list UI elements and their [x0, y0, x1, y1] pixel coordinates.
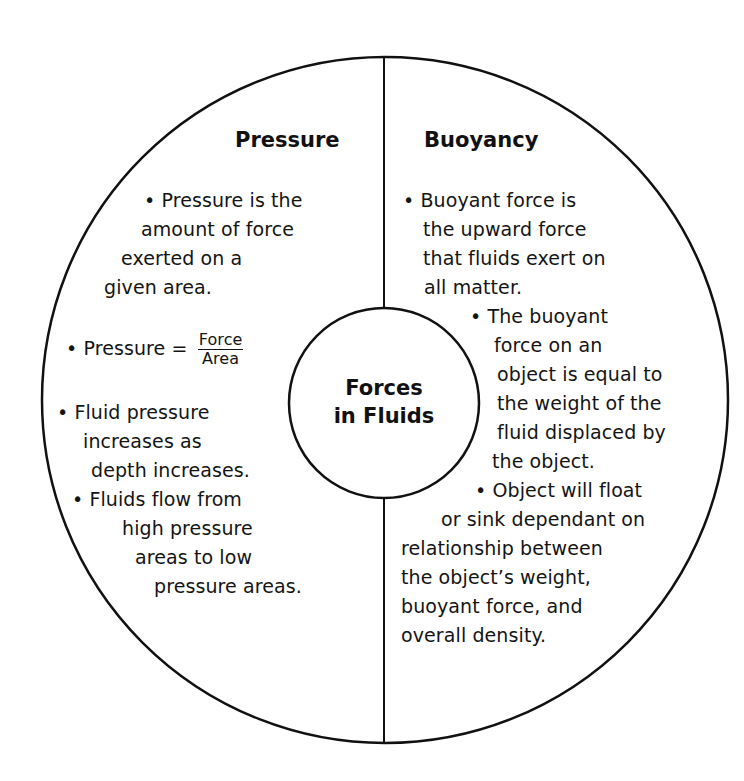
- text-line: increases as: [83, 429, 202, 453]
- text-line: high pressure: [122, 516, 253, 540]
- formula-fraction: Force Area: [198, 331, 244, 368]
- text-line: • Pressure is the: [144, 188, 303, 212]
- fraction-denominator: Area: [198, 350, 244, 368]
- text-line: force on an: [494, 333, 602, 357]
- pressure-bullet-formula: • Pressure = Force Area: [66, 330, 243, 368]
- formula-prefix: • Pressure =: [66, 337, 188, 359]
- fraction-numerator: Force: [198, 331, 244, 350]
- text-line: amount of force: [141, 217, 294, 241]
- text-line: depth increases.: [91, 458, 250, 482]
- text-line: • Buoyant force is: [403, 188, 576, 212]
- text-line: given area.: [104, 275, 212, 299]
- text-line: fluid displaced by: [497, 420, 666, 444]
- text-line: the object’s weight,: [401, 565, 591, 589]
- text-line: buoyant force, and: [401, 594, 583, 618]
- text-line: relationship between: [401, 536, 603, 560]
- text-line: all matter.: [424, 275, 522, 299]
- text-line: exerted on a: [121, 246, 242, 270]
- text-line: object is equal to: [497, 362, 662, 386]
- center-title: Forces in Fluids: [289, 374, 479, 430]
- text-line: • Fluid pressure: [57, 400, 210, 424]
- text-line: or sink dependant on: [441, 507, 645, 531]
- buoyancy-heading: Buoyancy: [424, 128, 538, 152]
- text-line: pressure areas.: [154, 574, 302, 598]
- center-title-line-2: in Fluids: [289, 402, 479, 430]
- center-title-line-1: Forces: [289, 374, 479, 402]
- pressure-heading: Pressure: [235, 128, 340, 152]
- text-line: • The buoyant: [470, 304, 608, 328]
- text-line: the weight of the: [497, 391, 662, 415]
- text-line: • Fluids flow from: [72, 487, 242, 511]
- text-line: • Object will float: [475, 478, 642, 502]
- text-line: the object.: [492, 449, 595, 473]
- text-line: areas to low: [135, 545, 252, 569]
- text-line: overall density.: [401, 623, 546, 647]
- text-line: the upward force: [423, 217, 587, 241]
- text-line: that fluids exert on: [423, 246, 606, 270]
